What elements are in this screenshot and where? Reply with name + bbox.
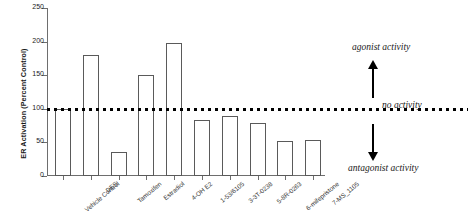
y-tick-label: 50 <box>20 137 44 144</box>
plot-area: 050100150200250 <box>47 8 325 176</box>
y-axis-line <box>47 8 48 176</box>
arrow-down-shaft <box>372 124 374 154</box>
y-tick-label: 250 <box>20 3 44 10</box>
bar <box>138 75 154 176</box>
bar <box>305 140 321 176</box>
x-tick-label-group: Vehicle ControlDESTamoxifenEstradiol4-OH… <box>47 176 337 218</box>
bar <box>83 55 99 176</box>
x-tick-label: 1-53/6105 <box>219 180 246 204</box>
y-tick-label: 0 <box>20 171 44 178</box>
antagonist-activity-annotation: antagonist activity <box>348 163 418 173</box>
no-activity-annotation: no activity <box>382 100 422 110</box>
y-tick-label: 100 <box>20 104 44 111</box>
x-tick-label: Estradiol <box>162 180 186 201</box>
activity-direction-arrows <box>367 58 381 158</box>
x-tick-label: DES <box>104 180 119 194</box>
bar <box>277 141 293 176</box>
bar <box>222 116 238 176</box>
bar <box>250 123 266 176</box>
y-tick-label: 200 <box>20 37 44 44</box>
arrow-up-shaft <box>372 68 374 98</box>
x-tick-label: 3-3T-0238 <box>247 180 274 204</box>
bar <box>55 109 71 176</box>
bar <box>111 152 127 176</box>
bar <box>194 120 210 176</box>
y-tick-label: 150 <box>20 70 44 77</box>
x-tick-label: 5-8R-0263 <box>275 180 303 205</box>
agonist-activity-annotation: agonist activity <box>352 42 410 52</box>
x-tick-label: Tamoxifen <box>135 180 162 204</box>
arrow-down-icon <box>368 152 378 161</box>
x-tick-label: 4-OH E2 <box>190 180 214 201</box>
